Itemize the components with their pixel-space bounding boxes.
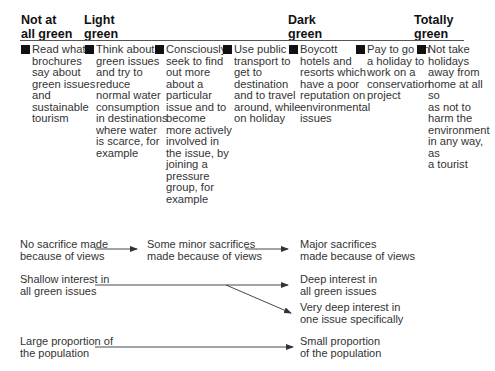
text-line: all green issues <box>300 286 377 298</box>
text-line: Shallow interest in <box>20 274 109 286</box>
sacrifice-middle-label: Some minor sacrifices made because of vi… <box>147 239 262 262</box>
text-line: because of views <box>20 251 108 263</box>
text-line: made because of views <box>300 251 415 263</box>
interest-end-very-deep-label: Very deep interest in one issue specific… <box>300 302 403 325</box>
text-line: Major sacrifices <box>300 239 415 251</box>
text-line: Very deep interest in <box>300 302 403 314</box>
text-line: all green issues <box>20 286 109 298</box>
text-line: Some minor sacrifices <box>147 239 262 251</box>
interest-start-label: Shallow interest in all green issues <box>20 274 109 297</box>
interest-end-deep-label: Deep interest in all green issues <box>300 274 377 297</box>
sacrifice-end-label: Major sacrifices made because of views <box>300 239 415 262</box>
text-line: Small proportion <box>300 336 381 348</box>
text-line: Large proportion of <box>20 336 113 348</box>
text-line: made because of views <box>147 251 262 263</box>
population-start-label: Large proportion of the population <box>20 336 113 359</box>
flow-arrows <box>0 0 495 371</box>
text-line: one issue specifically <box>300 314 403 326</box>
text-line: of the population <box>300 348 381 360</box>
sacrifice-start-label: No sacrifice made because of views <box>20 239 108 262</box>
text-line: Deep interest in <box>300 274 377 286</box>
text-line: No sacrifice made <box>20 239 108 251</box>
text-line: the population <box>20 348 113 360</box>
population-end-label: Small proportion of the population <box>300 336 381 359</box>
